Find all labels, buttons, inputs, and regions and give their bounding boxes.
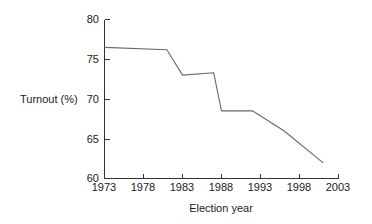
x-axis-title: Election year	[189, 202, 253, 214]
y-tick-marks	[105, 20, 110, 179]
x-tick-label-1988: 1988	[209, 181, 233, 193]
y-tick-label-75: 75	[87, 53, 99, 65]
x-tick-marks	[105, 174, 339, 179]
x-tick-label-1973: 1973	[92, 181, 116, 193]
y-axis-title: Turnout (%)	[20, 93, 78, 105]
x-tick-label-1998: 1998	[287, 181, 311, 193]
plot-area: 80 75 70 65 60 1973 1978 1983 1988 1993 …	[0, 0, 372, 224]
y-tick-label-80: 80	[87, 13, 99, 25]
x-tick-label-2003: 2003	[326, 181, 350, 193]
x-tick-label-1983: 1983	[170, 181, 194, 193]
y-tick-label-65: 65	[87, 133, 99, 145]
turnout-series-line	[105, 47, 323, 162]
turnout-line-chart: 80 75 70 65 60 1973 1978 1983 1988 1993 …	[0, 0, 372, 224]
y-tick-label-70: 70	[87, 93, 99, 105]
x-tick-label-1978: 1978	[131, 181, 155, 193]
x-tick-label-1993: 1993	[248, 181, 272, 193]
